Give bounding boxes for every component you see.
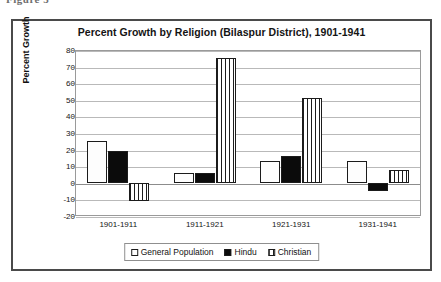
y-axis-tick: 10 xyxy=(41,162,75,171)
chart-title: Percent Growth by Religion (Bilaspur Dis… xyxy=(13,26,430,38)
legend-swatch-icon xyxy=(131,249,138,256)
x-axis-tick: 1921-1931 xyxy=(272,220,310,229)
gridline xyxy=(76,167,420,168)
y-axis-tick: 40 xyxy=(41,112,75,121)
y-axis-tick: 70 xyxy=(41,62,75,71)
y-axis-tick: 20 xyxy=(41,145,75,154)
y-axis-tick-labels: 80706050403020100-10-20 xyxy=(35,50,75,216)
y-axis-tick: 30 xyxy=(41,129,75,138)
gridline xyxy=(76,134,420,135)
y-axis-tick: -10 xyxy=(41,195,75,204)
y-axis-tick: 60 xyxy=(41,79,75,88)
gridline xyxy=(76,151,420,152)
y-axis-title: Percent Growth xyxy=(21,5,31,95)
plot-area xyxy=(75,50,421,216)
chart-frame: Percent Growth by Religion (Bilaspur Dis… xyxy=(11,19,432,271)
x-axis-tick: 1911-1921 xyxy=(186,220,224,229)
gridline xyxy=(76,84,420,85)
y-axis-tick: 50 xyxy=(41,95,75,104)
gridline xyxy=(76,217,420,218)
gridline xyxy=(76,200,420,201)
x-axis-tick: 1901-1911 xyxy=(99,220,137,229)
y-axis-tick: 0 xyxy=(41,178,75,187)
y-axis-tick: -20 xyxy=(41,212,75,221)
legend-item-hindu[interactable]: Hindu xyxy=(225,247,257,257)
x-axis-tick: 1931-1941 xyxy=(359,220,397,229)
gridline xyxy=(76,51,420,52)
legend-label: Hindu xyxy=(235,247,257,257)
gridline xyxy=(76,101,420,102)
chart-screenshot: Figure 5 Percent Growth by Religion (Bil… xyxy=(0,0,441,282)
legend-label: General Population xyxy=(141,247,214,257)
gridline xyxy=(76,117,420,118)
legend-swatch-icon xyxy=(268,249,275,256)
gridline xyxy=(76,68,420,69)
chart-legend: General PopulationHinduChristian xyxy=(124,243,320,261)
gridline xyxy=(76,184,420,185)
legend-swatch-icon xyxy=(225,249,232,256)
legend-item-christian[interactable]: Christian xyxy=(268,247,312,257)
y-axis-tick-mark xyxy=(71,216,75,217)
legend-label: Christian xyxy=(278,247,312,257)
x-axis-tick-labels: 1901-19111911-19211921-19311931-1941 xyxy=(75,220,421,236)
y-axis-tick: 80 xyxy=(41,46,75,55)
legend-item-general-population[interactable]: General Population xyxy=(131,247,214,257)
